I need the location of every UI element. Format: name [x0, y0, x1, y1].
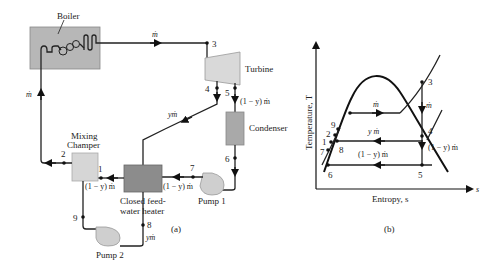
- schematic-a: Boiler ṁ 3 Turbine 4 yṁ 5 (1 − y) ṁ Con: [26, 11, 288, 260]
- flow-label-boiler-out: ṁ: [152, 30, 158, 39]
- condenser-label: Condenser: [249, 123, 288, 133]
- caption-b: (b): [384, 224, 395, 234]
- state-6-label: 6: [225, 154, 230, 164]
- ts-state-3: 3: [428, 77, 433, 87]
- y-axis-label: Temperature, T: [304, 94, 314, 150]
- mixing-label-line2: Champer: [67, 140, 100, 150]
- ts-flow-bottom: (1 − y) ṁ: [358, 150, 389, 159]
- ts-state-4: 4: [428, 126, 433, 136]
- ts-flow-expansion: ṁ: [426, 101, 432, 110]
- boiler-label: Boiler: [57, 11, 80, 21]
- x-axis-symbol: s: [476, 185, 479, 194]
- flow-label-pump2-in: yṁ: [145, 233, 156, 242]
- pump-1: Pump 1: [198, 173, 226, 206]
- ts-state-8: 8: [339, 145, 344, 155]
- flow-label-boiler-in: ṁ: [26, 90, 32, 99]
- turbine: Turbine: [205, 52, 273, 85]
- flow-label-fwh-out: (1 − y) ṁ: [85, 182, 116, 191]
- ts-diagram-b: s Entropy, s Temperature, T ṁ 3 ṁ 4 (1 −…: [304, 45, 479, 234]
- ts-flow-after-bleed: (1 − y) ṁ: [428, 143, 459, 152]
- flow-label-bleed: yṁ: [167, 110, 178, 119]
- ts-flow-top: ṁ: [373, 100, 379, 109]
- state-7-label: 7: [190, 163, 195, 173]
- pump-2: Pump 2: [96, 227, 124, 260]
- condenser: Condenser: [226, 112, 288, 145]
- state-5-label: 5: [225, 88, 230, 98]
- caption-a: (a): [171, 224, 181, 234]
- turbine-label: Turbine: [245, 64, 273, 74]
- state-3-label: 3: [212, 39, 217, 49]
- pump-2-label: Pump 2: [96, 250, 124, 260]
- state-1-label: 1: [98, 164, 103, 174]
- state-9-label: 9: [73, 213, 78, 223]
- flow-label-pump1-out: (1 − y) ṁ: [163, 182, 194, 191]
- fwh-label-line2: water heater: [120, 206, 164, 216]
- state-4-label: 4: [205, 84, 210, 94]
- ts-state-5: 5: [418, 170, 423, 180]
- ts-state-2: 2: [326, 129, 331, 139]
- ts-flow-middle: y ṁ: [367, 127, 380, 136]
- flow-label-turbine-exit: (1 − y) ṁ: [240, 97, 271, 106]
- boiler: Boiler: [30, 11, 207, 69]
- pump-1-label: Pump 1: [198, 196, 226, 206]
- ts-state-9: 9: [331, 120, 336, 130]
- ts-state-6: 6: [328, 170, 333, 180]
- x-axis-label: Entropy, s: [372, 194, 409, 204]
- state-2-label: 2: [61, 149, 66, 159]
- regenerative-rankine-cycle-figure: Boiler ṁ 3 Turbine 4 yṁ 5 (1 − y) ṁ Con: [0, 0, 495, 269]
- ts-state-7: 7: [320, 147, 325, 157]
- state-8-label: 8: [147, 220, 152, 230]
- mixing-chamber: Mixing Champer: [67, 131, 100, 181]
